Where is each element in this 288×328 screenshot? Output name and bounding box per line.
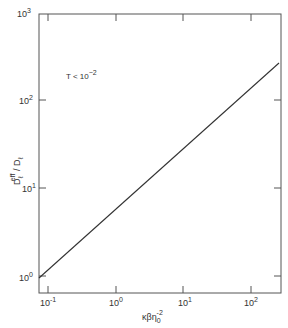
y-tick-label: 103 bbox=[17, 7, 31, 19]
x-ticks-top bbox=[48, 14, 251, 21]
data-line bbox=[39, 63, 279, 278]
x-tick-label: 100 bbox=[109, 296, 123, 308]
y-ticks-right bbox=[274, 100, 281, 276]
x-tick-label: 101 bbox=[178, 296, 192, 308]
x-ticks-bottom bbox=[48, 286, 251, 293]
x-tick-label: 10-1 bbox=[40, 296, 56, 308]
y-ticks-left bbox=[39, 100, 46, 276]
y-axis-label: Dℓeff / Dℓ bbox=[9, 157, 24, 185]
chart: 10-1 100 101 102 100 101 102 103 T < 10−… bbox=[0, 0, 288, 328]
x-axis-label: κβη0-2 bbox=[142, 309, 163, 324]
y-tick-label: 102 bbox=[19, 94, 33, 106]
annotation-temperature: T < 10−2 bbox=[66, 69, 97, 81]
y-tick-label: 101 bbox=[22, 182, 36, 194]
plot-frame bbox=[39, 14, 281, 293]
y-tick-label: 100 bbox=[19, 271, 33, 283]
x-tick-label: 102 bbox=[244, 296, 258, 308]
